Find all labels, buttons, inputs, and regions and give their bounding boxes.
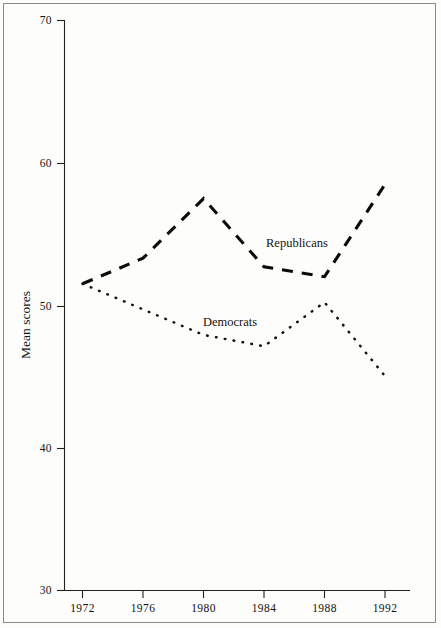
series-label-democrats: Democrats — [203, 315, 257, 329]
y-axis-title: Mean scores — [18, 291, 33, 359]
x-tick-label-1980: 1980 — [191, 602, 216, 614]
y-tick-label-40: 40 — [40, 442, 52, 454]
x-tick-label-1984: 1984 — [252, 602, 277, 614]
x-tick-labels: 1972 1976 1980 1984 1988 1992 — [70, 602, 397, 614]
series-line-democrats — [83, 284, 386, 376]
figure-container: 70 60 50 40 30 1972 1976 1980 1984 1988 … — [0, 0, 441, 628]
axis-lines — [65, 20, 411, 591]
y-tick-label-50: 50 — [40, 300, 52, 312]
series-line-republicans — [83, 184, 386, 283]
y-tick-marks — [57, 21, 65, 591]
x-tick-label-1992: 1992 — [373, 602, 398, 614]
x-tick-label-1972: 1972 — [70, 602, 95, 614]
x-tick-label-1988: 1988 — [312, 602, 337, 614]
x-tick-marks — [83, 591, 386, 599]
y-tick-labels: 70 60 50 40 30 — [40, 14, 52, 596]
x-tick-label-1976: 1976 — [131, 602, 156, 614]
y-tick-label-60: 60 — [40, 157, 52, 169]
y-tick-label-30: 30 — [40, 584, 52, 596]
y-tick-label-70: 70 — [40, 14, 52, 26]
series-label-republicans: Republicans — [266, 236, 328, 250]
line-chart: 70 60 50 40 30 1972 1976 1980 1984 1988 … — [0, 0, 441, 628]
